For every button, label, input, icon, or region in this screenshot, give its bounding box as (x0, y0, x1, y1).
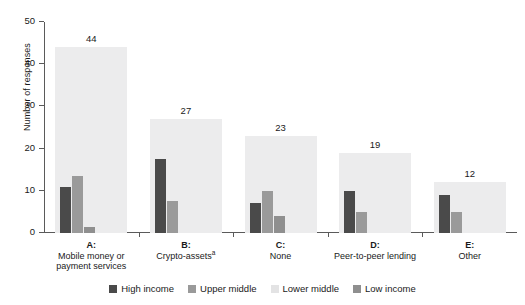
category-footnote-marker: a (212, 249, 216, 256)
bar-value-label: 44 (55, 33, 127, 44)
chart-legend: High incomeUpper middleLower middleLow i… (0, 283, 525, 294)
legend-label: Lower middle (283, 283, 340, 294)
y-axis-tick: 30 (39, 105, 44, 106)
category-key: E: (422, 240, 517, 251)
bar-value-label: 27 (150, 105, 222, 116)
bar-value-label: 12 (434, 168, 506, 179)
bar-value-label: 19 (339, 139, 411, 150)
bar-group: 12 (434, 22, 506, 233)
y-axis-tick: 20 (39, 148, 44, 149)
x-axis-category-label: E:Other (422, 240, 517, 261)
bar-chart: Number of responses 01020304050 44272319… (0, 0, 525, 305)
x-axis-category-label: B:Crypto-assetsa (139, 240, 234, 261)
y-axis-tick-label: 10 (24, 184, 35, 195)
bar-segment (451, 212, 462, 233)
bar-segment (60, 187, 71, 233)
bar-segment (72, 176, 83, 233)
bar-segment (439, 195, 450, 233)
bar-group: 23 (245, 22, 317, 233)
legend-label: Upper middle (200, 283, 257, 294)
bar-segment (250, 203, 261, 233)
bar-segment (84, 227, 95, 233)
bar-group: 19 (339, 22, 411, 233)
category-key: D: (328, 240, 423, 251)
y-axis-tick: 40 (39, 63, 44, 64)
bar-segment (155, 159, 166, 233)
bar-segment (274, 216, 285, 233)
bar-subgroup (344, 191, 379, 233)
legend-item: Upper middle (188, 283, 257, 294)
bar-segment (167, 201, 178, 233)
y-axis-title: Number of responses (22, 12, 32, 162)
bar-subgroup (60, 176, 95, 233)
y-axis-line (44, 22, 45, 233)
legend-item: High income (109, 283, 174, 294)
x-axis-tick (139, 233, 140, 237)
bar-subgroup (155, 159, 190, 233)
plot-area: 01020304050 4427231912 (44, 22, 517, 233)
legend-swatch-icon (271, 285, 279, 293)
category-key: B: (139, 240, 234, 251)
bar-subgroup (250, 191, 285, 233)
legend-swatch-icon (353, 285, 361, 293)
x-axis-category-label: D:Peer-to-peer lending (328, 240, 423, 261)
x-axis-category-label: A:Mobile money or payment services (44, 240, 139, 272)
bar-group: 44 (55, 22, 127, 233)
category-key: C: (233, 240, 328, 251)
legend-swatch-icon (109, 285, 117, 293)
bar-value-label: 23 (245, 122, 317, 133)
y-axis-tick: 10 (39, 190, 44, 191)
bar-segment (356, 212, 367, 233)
legend-label: Low income (365, 283, 416, 294)
category-key: A: (44, 240, 139, 251)
y-axis-tick-label: 30 (24, 99, 35, 110)
legend-swatch-icon (188, 285, 196, 293)
y-axis-tick: 0 (39, 232, 44, 233)
category-name: Other (422, 251, 517, 262)
y-axis-tick-label: 40 (24, 57, 35, 68)
y-axis-tick-label: 20 (24, 142, 35, 153)
bar-subgroup (439, 195, 474, 233)
x-axis-tick (233, 233, 234, 237)
y-axis-tick-label: 50 (24, 15, 35, 26)
y-axis-tick: 50 (39, 21, 44, 22)
category-name: None (233, 251, 328, 262)
bar-group: 27 (150, 22, 222, 233)
legend-item: Low income (353, 283, 416, 294)
y-axis-tick-label: 0 (30, 226, 35, 237)
category-name: Mobile money or payment services (44, 251, 139, 272)
category-name: Crypto-assetsa (139, 251, 234, 262)
bar-segment (344, 191, 355, 233)
x-axis-tick (328, 233, 329, 237)
category-name: Peer-to-peer lending (328, 251, 423, 262)
legend-item: Lower middle (271, 283, 340, 294)
legend-label: High income (121, 283, 174, 294)
bar-segment (262, 191, 273, 233)
x-axis-category-label: C:None (233, 240, 328, 261)
x-axis-tick (422, 233, 423, 237)
